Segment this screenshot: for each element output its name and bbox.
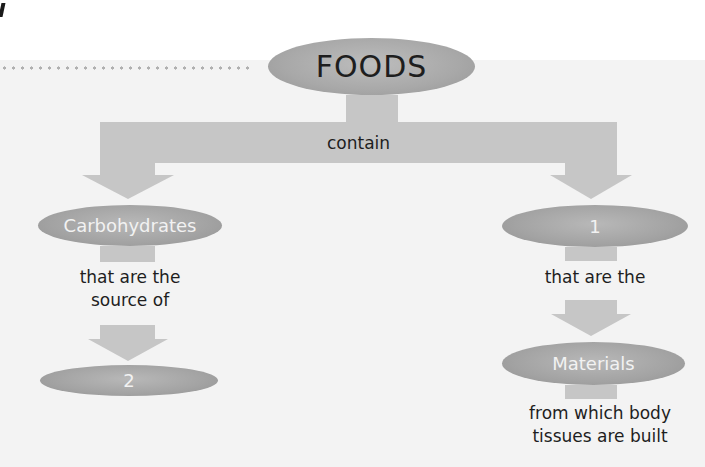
node-materials-label: Materials: [552, 353, 635, 374]
left-relation-line-2: source of: [45, 289, 215, 312]
root-node-foods: FOODS: [268, 38, 475, 95]
node-blank-2: 2: [40, 365, 218, 396]
materials-description-line-1: from which body: [500, 402, 700, 425]
right-stub-connector: [565, 247, 617, 261]
root-stem-connector: [346, 95, 398, 123]
left-arrow2-head-icon: [88, 339, 168, 361]
left-relation-line-1: that are the: [45, 266, 215, 289]
node-blank-1: 1: [502, 205, 688, 247]
concept-map-canvas: FOODS contain Carbohydrates that are the…: [0, 0, 705, 467]
right-arrow-head-icon: [550, 175, 632, 199]
right-arrow2-head-icon: [551, 314, 631, 336]
left-relation-label: that are the source of: [45, 266, 215, 312]
node-carbohydrates: Carbohydrates: [38, 205, 222, 246]
right-relation-label: that are the: [505, 266, 685, 289]
right-relation-line-1: that are the: [505, 266, 685, 289]
left-stub-connector: [100, 246, 155, 262]
corner-glyph-fragment: [0, 3, 5, 17]
dotted-leader-line: [0, 65, 252, 71]
materials-description: from which body tissues are built: [500, 402, 700, 448]
node-carbohydrates-label: Carbohydrates: [64, 215, 197, 236]
left-arrow-shaft: [100, 163, 155, 175]
right-stub2-connector: [565, 385, 617, 399]
right-arrow-shaft: [565, 163, 617, 175]
node-materials: Materials: [502, 342, 685, 385]
right-arrow2-shaft: [565, 300, 617, 314]
left-arrow-head-icon: [82, 175, 174, 199]
root-node-label: FOODS: [316, 49, 428, 84]
left-arrow2-shaft: [100, 325, 155, 339]
contain-relation-label: contain: [100, 122, 617, 163]
materials-description-line-2: tissues are built: [500, 425, 700, 448]
node-blank-2-label: 2: [123, 370, 134, 391]
node-blank-1-label: 1: [589, 216, 600, 237]
